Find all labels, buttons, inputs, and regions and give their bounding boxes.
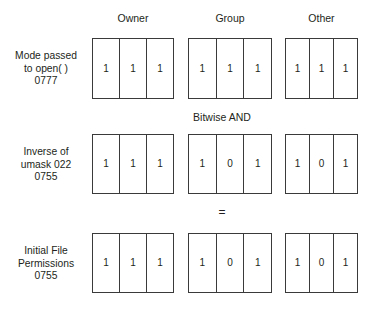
column-header-group: Group	[188, 12, 272, 24]
bit-cell: 0	[217, 135, 245, 193]
row-label-inverse-umask-line-1: Inverse of	[2, 146, 90, 159]
operator-equals: =	[160, 206, 284, 218]
column-header-other: Other	[285, 12, 358, 24]
bit-cell: 1	[189, 234, 217, 292]
bit-cell: 1	[189, 135, 217, 193]
bit-group-initial-file-permissions-other: 1 0 1	[285, 233, 358, 293]
bit-cell: 1	[310, 39, 334, 98]
bit-cell: 1	[120, 39, 147, 98]
bit-cell: 1	[244, 234, 271, 292]
permission-bits-diagram: Owner Group Other Mode passed to open( )…	[0, 0, 374, 314]
row-label-inverse-umask: Inverse of umask 022 0755	[2, 146, 90, 184]
column-header-owner-label: Owner	[118, 12, 149, 24]
row-label-mode-passed-line-1: Mode passed	[2, 50, 90, 63]
bit-cell: 1	[334, 39, 357, 98]
bit-group-mode-passed-group: 1 1 1	[188, 38, 272, 99]
bit-group-mode-passed-owner: 1 1 1	[92, 38, 174, 99]
bit-cell: 1	[217, 39, 245, 98]
row-label-initial-file-permissions-line-1: Initial File	[2, 245, 90, 258]
bit-cell: 1	[120, 234, 147, 292]
bit-group-inverse-umask-other: 1 0 1	[285, 134, 358, 194]
row-label-initial-file-permissions-line-2: Permissions	[2, 258, 90, 271]
bit-group-mode-passed-other: 1 1 1	[285, 38, 358, 99]
column-header-owner: Owner	[92, 12, 174, 24]
row-label-initial-file-permissions-line-3: 0755	[2, 270, 90, 283]
column-header-other-label: Other	[308, 12, 334, 24]
column-header-group-label: Group	[215, 12, 244, 24]
bit-cell: 1	[93, 39, 120, 98]
bit-cell: 0	[310, 135, 334, 193]
row-label-mode-passed-line-2: to open( )	[2, 63, 90, 76]
bit-group-initial-file-permissions-owner: 1 1 1	[92, 233, 174, 293]
bit-cell: 1	[286, 39, 310, 98]
bit-cell: 1	[189, 39, 217, 98]
operator-bitwise-and: Bitwise AND	[160, 111, 284, 123]
bit-cell: 1	[286, 135, 310, 193]
bit-cell: 1	[147, 135, 173, 193]
bit-group-inverse-umask-owner: 1 1 1	[92, 134, 174, 194]
row-label-initial-file-permissions: Initial File Permissions 0755	[2, 245, 90, 283]
bit-cell: 1	[334, 135, 357, 193]
bit-cell: 1	[244, 39, 271, 98]
row-label-inverse-umask-line-3: 0755	[2, 171, 90, 184]
row-label-mode-passed-line-3: 0777	[2, 75, 90, 88]
bit-cell: 1	[147, 39, 173, 98]
bit-cell: 0	[217, 234, 245, 292]
row-label-mode-passed: Mode passed to open( ) 0777	[2, 50, 90, 88]
row-label-inverse-umask-line-2: umask 022	[2, 159, 90, 172]
bit-cell: 1	[244, 135, 271, 193]
bit-cell: 1	[93, 234, 120, 292]
bit-cell: 1	[147, 234, 173, 292]
bit-group-inverse-umask-group: 1 0 1	[188, 134, 272, 194]
bit-cell: 1	[120, 135, 147, 193]
bit-cell: 1	[334, 234, 357, 292]
bit-group-initial-file-permissions-group: 1 0 1	[188, 233, 272, 293]
bit-cell: 0	[310, 234, 334, 292]
bit-cell: 1	[286, 234, 310, 292]
bit-cell: 1	[93, 135, 120, 193]
